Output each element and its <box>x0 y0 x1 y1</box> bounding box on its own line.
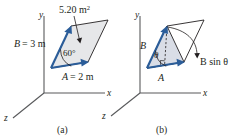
panel-a-vector-b-value: = 3 m <box>22 38 46 49</box>
panel-a-caption: (a) <box>57 125 68 136</box>
panel-b-caption: (b) <box>156 125 167 136</box>
panel-b-z-axis <box>111 93 140 116</box>
panel-a-parallelogram <box>51 20 108 68</box>
panel-b-z-axis-label: z <box>101 111 106 121</box>
figure-canvas: 5.20 m2 y x z B = 3 m A = 2 m 60° (a) <box>0 0 236 138</box>
physics-figure: 5.20 m2 y x z B = 3 m A = 2 m 60° (a) <box>0 0 236 138</box>
panel-b-vector-b-label: B <box>140 40 146 51</box>
panel-a-vector-a-label: A <box>61 71 69 82</box>
panel-b-angle-label: θ <box>154 50 159 60</box>
panel-a-x-axis-label: x <box>106 88 112 98</box>
panel-b-y-axis-label: y <box>134 10 140 20</box>
panel-a-z-axis <box>13 93 44 118</box>
panel-b-height-label: B sin θ <box>200 56 228 67</box>
panel-a: 5.20 m2 y x z B = 3 m A = 2 m 60° (a) <box>3 4 112 137</box>
panel-a-y-axis-label: y <box>38 10 44 20</box>
panel-a-area-label: 5.20 m2 <box>59 4 90 16</box>
panel-b: y x z B A θ B sin θ (b) <box>101 10 228 136</box>
panel-a-z-axis-label: z <box>3 113 8 123</box>
panel-b-x-axis-label: x <box>202 88 208 98</box>
panel-a-angle-label: 60° <box>63 48 76 58</box>
panel-a-vector-a-value: = 2 m <box>70 71 94 82</box>
panel-a-vector-b-label: B <box>14 38 20 49</box>
panel-b-vector-a-label: A <box>157 72 165 83</box>
